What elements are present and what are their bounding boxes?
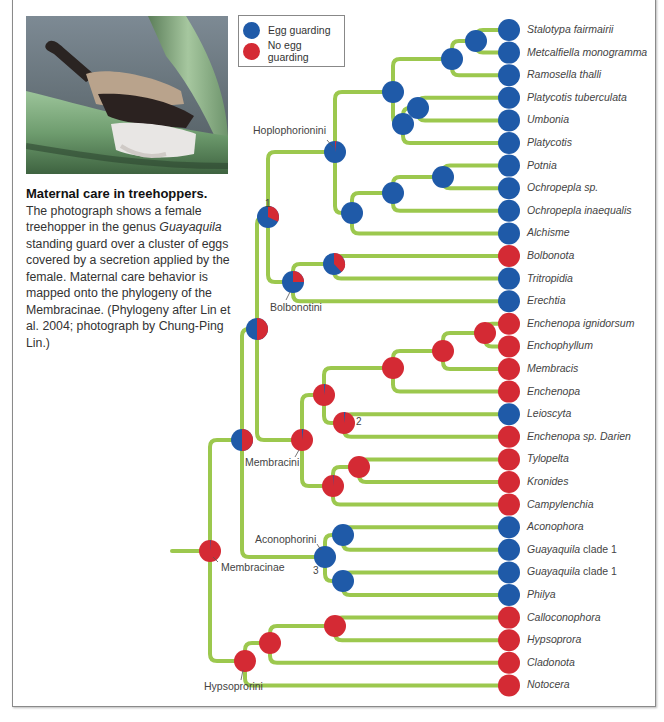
egg-guarding-dot xyxy=(498,87,520,109)
ancestral-state-pie-acono_a xyxy=(332,524,354,546)
no-egg-guarding-dot xyxy=(498,381,520,403)
ancestral-state-pie-stal_metc xyxy=(465,30,487,52)
egg-guarding-dot xyxy=(498,268,520,290)
no-egg-guarding-dot xyxy=(498,494,520,516)
egg-guarding-dot xyxy=(498,109,520,131)
no-egg-guarding-dot xyxy=(498,313,520,335)
clade-label-hoplophorionini: Hoplophorionini xyxy=(253,124,326,136)
branch xyxy=(343,581,505,595)
branch xyxy=(333,486,505,505)
branch xyxy=(210,440,242,551)
ancestral-state-pie-memb_a xyxy=(313,384,335,406)
taxon-label: Kronides xyxy=(527,475,568,487)
taxon-label: Tritropidia xyxy=(527,272,573,284)
taxon-label: Platycotis xyxy=(527,136,572,148)
taxon-label: Enchophyllum xyxy=(527,339,593,351)
egg-guarding-dot xyxy=(498,561,520,583)
node-number-2: 2 xyxy=(356,416,362,427)
taxon-label: Guayaquila clade 1 xyxy=(527,543,617,555)
taxon-label: Calloconophora xyxy=(527,611,601,623)
no-egg-guarding-dot xyxy=(498,448,520,470)
node-number-3: 3 xyxy=(313,565,319,576)
clade-label-aconophorini: Aconophorini xyxy=(255,533,316,545)
branch xyxy=(334,264,505,279)
egg-guarding-dot xyxy=(498,516,520,538)
ancestral-state-pie-tylo xyxy=(348,456,370,478)
taxon-label: Bolbonota xyxy=(527,249,574,261)
branch xyxy=(334,256,505,264)
egg-guarding-dot xyxy=(498,42,520,64)
no-egg-guarding-dot xyxy=(498,335,520,357)
ancestral-state-pie-mid xyxy=(231,429,253,451)
branch xyxy=(335,618,505,626)
egg-guarding-dot xyxy=(498,584,520,606)
ancestral-state-pie-ench xyxy=(382,357,404,379)
label-leader-line xyxy=(286,292,290,300)
egg-guarding-dot xyxy=(498,177,520,199)
branch xyxy=(418,98,505,108)
taxon-label: Stalotypa fairmairii xyxy=(527,23,613,35)
egg-guarding-dot xyxy=(498,539,520,561)
branch xyxy=(403,124,505,143)
ancestral-state-pie-hypsoprorini xyxy=(234,650,256,672)
egg-guarding-dot xyxy=(498,290,520,312)
ancestral-state-pie-bolbonotini xyxy=(282,271,304,293)
taxon-label: Campylenchia xyxy=(527,498,594,510)
taxon-label: Metcalfiella monogramma xyxy=(527,46,647,58)
branch xyxy=(359,459,505,467)
ancestral-state-pie-ram xyxy=(441,48,463,70)
branch xyxy=(343,572,505,581)
branch xyxy=(359,467,505,482)
branch xyxy=(335,626,505,640)
no-egg-guarding-dot xyxy=(498,426,520,448)
taxon-label: Tylopelta xyxy=(527,452,569,464)
taxon-label: Enchenopa xyxy=(527,385,580,397)
no-egg-guarding-dot xyxy=(498,629,520,651)
no-egg-guarding-dot xyxy=(498,358,520,380)
taxon-label: Erechtia xyxy=(527,294,566,306)
egg-guarding-dot xyxy=(498,200,520,222)
taxon-label: Potnia xyxy=(527,159,557,171)
ancestral-state-pie-hyps_a xyxy=(324,615,346,637)
taxon-label: Guayaquila clade 1 xyxy=(527,565,617,577)
clade-label-membracini: Membracini xyxy=(245,456,299,468)
branch xyxy=(335,92,393,152)
branch xyxy=(343,535,505,550)
branch xyxy=(393,368,505,392)
ancestral-state-pie-platy_umb xyxy=(407,97,429,119)
egg-guarding-dot xyxy=(498,222,520,244)
clade-label-hypsoprorini: Hypsoprorini xyxy=(204,680,263,692)
no-egg-guarding-dot xyxy=(498,607,520,629)
no-egg-guarding-dot xyxy=(498,674,520,696)
no-egg-guarding-dot xyxy=(498,245,520,267)
egg-guarding-dot xyxy=(498,64,520,86)
ancestral-state-pie-potnia xyxy=(432,166,454,188)
clade-label-bolbonotini: Bolbonotini xyxy=(270,301,322,313)
ancestral-state-pie-alch xyxy=(341,202,363,224)
ancestral-state-pie-hoplophorionini xyxy=(324,141,346,163)
ancestral-state-pie-campy xyxy=(322,475,344,497)
ancestral-state-pie-hoplo_a xyxy=(382,81,404,103)
ancestral-state-pie-ench_ign xyxy=(474,322,496,344)
ancestral-state-pie-membracinae xyxy=(199,540,221,562)
taxon-label: Hypsoprora xyxy=(527,633,581,645)
egg-guarding-dot xyxy=(498,155,520,177)
no-egg-guarding-dot xyxy=(498,652,520,674)
branch xyxy=(344,423,505,437)
ancestral-state-pie-n1 xyxy=(257,206,279,228)
taxon-label: Alchisme xyxy=(527,226,570,238)
ancestral-state-pie-memb xyxy=(432,340,454,362)
branch xyxy=(324,368,393,395)
taxon-label: Ochropepla inaequalis xyxy=(527,204,632,216)
ancestral-state-pie-n2 xyxy=(333,412,355,434)
ancestral-state-pie-ochro xyxy=(382,182,404,204)
ancestral-state-pie-upper xyxy=(246,318,268,340)
taxon-label: Leioscyta xyxy=(527,407,571,419)
taxon-label: Ochropepla sp. xyxy=(527,181,598,193)
taxon-label: Membracis xyxy=(527,362,578,374)
egg-guarding-dot xyxy=(498,132,520,154)
taxon-label: Enchenopa ignidorsum xyxy=(527,317,634,329)
branch xyxy=(344,414,505,423)
egg-guarding-dot xyxy=(498,19,520,41)
branch xyxy=(393,193,505,211)
